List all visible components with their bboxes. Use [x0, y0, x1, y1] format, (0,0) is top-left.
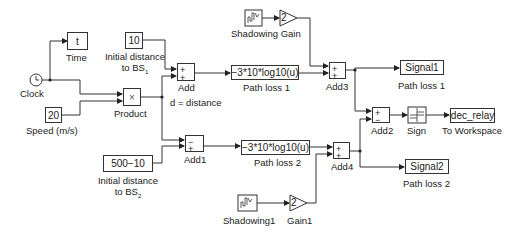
initial-distance-bs2-label: Initial distance to BS2 [97, 175, 159, 202]
gain1-label: Gain1 [287, 215, 312, 226]
signal2-label: Path loss 2 [403, 178, 450, 189]
add1-block[interactable]: − + [185, 135, 204, 152]
shadowing1-label: Shadowing1 [223, 215, 275, 226]
initial-distance-bs1-label: Initial distance to BS1 [104, 51, 166, 78]
to-workspace-label: To Workspace [442, 125, 502, 136]
path-loss-2-label: Path loss 2 [254, 157, 301, 168]
add2-label: Add2 [371, 125, 393, 136]
time-block[interactable]: t [67, 32, 88, 50]
initial-distance-bs2-block[interactable]: 500−10 [103, 155, 153, 172]
shadowing-gain-label: Shadowing Gain [231, 28, 301, 39]
add4-block[interactable]: + + [333, 142, 350, 159]
gain-value[interactable]: 2 [281, 12, 287, 23]
signal1-label: Path loss 1 [398, 80, 445, 91]
clock-icon [30, 74, 42, 86]
gain1-value[interactable]: 2 [291, 197, 297, 208]
signal1-block[interactable]: Signal1 [400, 60, 444, 75]
to-workspace-block[interactable]: dec_relay [450, 108, 495, 123]
speed-label: Speed (m/s) [26, 125, 78, 136]
path-loss-2-block[interactable]: −3*10*log10(u) [241, 140, 310, 155]
add2-block[interactable]: + − [372, 107, 390, 123]
time-label: Time [66, 52, 87, 63]
add3-label: Add3 [326, 81, 348, 92]
path-loss-1-label: Path loss 1 [243, 82, 290, 93]
add3-block[interactable]: + + [329, 62, 346, 79]
speed-block[interactable]: 20 [45, 107, 62, 123]
signal2-block[interactable]: Signal2 [405, 159, 449, 174]
add1-label: Add1 [184, 154, 206, 165]
clock-label: Clock [20, 88, 44, 99]
path-loss-1-block[interactable]: −3*10*log10(u) [231, 65, 299, 80]
product-label: Product [114, 108, 147, 119]
add4-label: Add4 [331, 161, 353, 172]
add-block[interactable]: + + [177, 63, 195, 81]
distance-signal-label: d = distance [170, 97, 222, 108]
add-label: Add [178, 82, 195, 93]
product-block[interactable]: × [123, 88, 141, 106]
initial-distance-bs1-block[interactable]: 10 [125, 32, 143, 49]
sign-label: Sign [407, 125, 426, 136]
